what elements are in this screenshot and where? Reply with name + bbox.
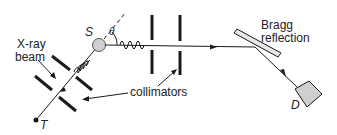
reflected-beam-arrow xyxy=(280,69,286,77)
collimator-bar xyxy=(59,97,76,111)
collimator-bar xyxy=(35,76,52,90)
target-point xyxy=(34,118,39,123)
angle-label: θ xyxy=(109,25,114,38)
target-label: T xyxy=(40,119,47,132)
collimator-pointer-line xyxy=(158,71,175,86)
scatterer-sphere xyxy=(93,39,106,52)
bragg-label-line2: reflection xyxy=(261,32,310,45)
collimators-label: collimators xyxy=(130,86,187,99)
scattered-wave-packet xyxy=(120,41,144,49)
collimator-pointer-arrow xyxy=(82,96,89,102)
xray-beam-label-line2: beam xyxy=(15,51,45,64)
scatterer-label: S xyxy=(85,26,93,39)
collimator-pointer-line xyxy=(85,93,128,99)
collimator-bar xyxy=(76,77,92,90)
collimator-bar xyxy=(52,56,70,70)
scattered-beam-arrow xyxy=(210,45,217,50)
dashed-reference-line xyxy=(104,12,126,39)
detector-label: D xyxy=(291,99,300,112)
